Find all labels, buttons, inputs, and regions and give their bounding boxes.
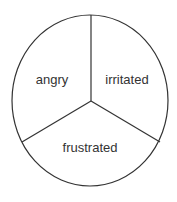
segmented-circle <box>0 0 177 202</box>
divider-lower-right <box>91 101 160 142</box>
divider-lower-left <box>22 101 91 142</box>
segment-label-irritated: irritated <box>105 72 148 87</box>
circle-outline <box>12 15 168 186</box>
segment-label-frustrated: frustrated <box>63 140 118 155</box>
segment-label-angry: angry <box>36 72 69 87</box>
